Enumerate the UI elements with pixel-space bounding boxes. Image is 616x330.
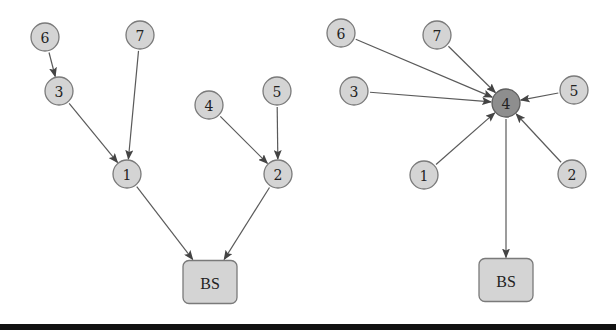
node-label: 1 bbox=[420, 168, 429, 184]
node-label: 4 bbox=[205, 98, 214, 114]
sensor-node-1: 1 bbox=[113, 160, 141, 188]
star-topology-diagram: 6734512BS bbox=[327, 19, 588, 302]
edge-1-to-BS bbox=[137, 187, 193, 260]
node-label: 7 bbox=[136, 28, 145, 44]
edges-layer bbox=[49, 51, 278, 260]
node-label: BS bbox=[496, 273, 516, 290]
base-station-node: BS bbox=[183, 261, 237, 304]
nodes-layer: 6734512BS bbox=[327, 19, 588, 302]
edge-6-to-3 bbox=[49, 52, 55, 76]
sensor-node-2: 2 bbox=[264, 160, 292, 188]
tree-topology-diagram: 6734512BS bbox=[31, 21, 292, 304]
node-label: 2 bbox=[568, 167, 577, 183]
edge-6-to-4 bbox=[356, 39, 492, 97]
cluster-head-node-4: 4 bbox=[492, 89, 520, 117]
edge-2-to-BS bbox=[224, 188, 269, 260]
node-label: 5 bbox=[273, 84, 282, 100]
node-label: 7 bbox=[433, 28, 442, 44]
edge-7-to-1 bbox=[128, 51, 138, 159]
bottom-border-bar bbox=[0, 324, 616, 330]
node-label: 6 bbox=[41, 30, 50, 46]
node-label: 5 bbox=[570, 83, 579, 99]
nodes-layer: 6734512BS bbox=[31, 21, 292, 304]
sensor-node-6: 6 bbox=[31, 23, 59, 51]
node-label: 2 bbox=[274, 167, 283, 183]
network-diagram-canvas: 6734512BS 6734512BS bbox=[0, 0, 616, 330]
edge-1-to-4 bbox=[436, 113, 495, 165]
edge-2-to-4 bbox=[516, 114, 561, 162]
base-station-node: BS bbox=[479, 259, 533, 302]
edge-5-to-2 bbox=[277, 107, 278, 159]
edges-layer bbox=[356, 39, 561, 257]
node-label: 3 bbox=[350, 84, 359, 100]
edge-7-to-4 bbox=[448, 46, 495, 92]
sensor-node-5: 5 bbox=[560, 76, 588, 104]
edge-4-to-2 bbox=[220, 116, 267, 163]
edge-3-to-1 bbox=[69, 103, 117, 162]
sensor-node-6: 6 bbox=[327, 19, 355, 47]
node-label: 3 bbox=[55, 84, 64, 100]
node-label: 1 bbox=[123, 167, 132, 183]
sensor-node-3: 3 bbox=[340, 77, 368, 105]
node-label: 4 bbox=[502, 96, 511, 112]
sensor-node-4: 4 bbox=[195, 91, 223, 119]
node-label: BS bbox=[200, 275, 220, 292]
sensor-node-3: 3 bbox=[45, 77, 73, 105]
edge-5-to-4 bbox=[521, 93, 559, 100]
sensor-node-2: 2 bbox=[558, 160, 586, 188]
sensor-node-7: 7 bbox=[423, 21, 451, 49]
node-label: 6 bbox=[337, 26, 346, 42]
sensor-node-7: 7 bbox=[126, 21, 154, 49]
sensor-node-5: 5 bbox=[263, 77, 291, 105]
edge-3-to-4 bbox=[370, 92, 491, 102]
sensor-node-1: 1 bbox=[410, 161, 438, 189]
